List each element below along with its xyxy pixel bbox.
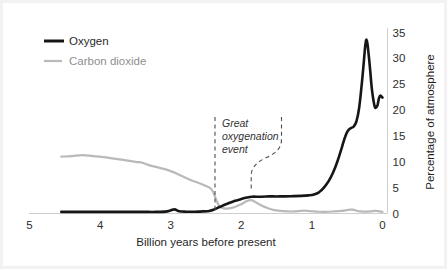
annotation-leader-dashed-line [251, 117, 281, 192]
annotation-text-line-3: event [222, 143, 249, 155]
legend: Oxygen Carbon dioxide [44, 35, 146, 67]
x-tick-label-2: 2 [238, 219, 244, 231]
y-tick-label-0: 0 [393, 208, 399, 220]
y-axis-tick-labels: 05101520253035 [393, 27, 406, 220]
atmosphere-evolution-figure: 543210 05101520253035 Great oxygenation … [0, 0, 447, 269]
x-tick-label-0: 0 [379, 219, 385, 231]
y-tick-label-15: 15 [393, 130, 406, 142]
carbon-dioxide-series-line [61, 155, 382, 212]
x-tick-label-4: 4 [97, 219, 104, 231]
y-tick-label-20: 20 [393, 104, 406, 116]
y-tick-label-5: 5 [393, 182, 399, 194]
y-tick-label-30: 30 [393, 52, 406, 64]
x-tick-label-3: 3 [167, 219, 173, 231]
x-tick-label-5: 5 [26, 219, 32, 231]
annotation-text-line-1: Great [222, 117, 249, 129]
y-tick-label-35: 35 [393, 27, 406, 39]
y-axis-title: Percentage of atmosphere [424, 54, 436, 190]
oxygen-legend-label: Oxygen [69, 35, 109, 47]
annotation-text-line-2: oxygenation [222, 130, 279, 142]
x-axis-title: Billion years before present [136, 236, 276, 248]
y-tick-label-10: 10 [393, 156, 406, 168]
chart-canvas: 543210 05101520253035 Great oxygenation … [0, 0, 447, 269]
x-tick-label-1: 1 [309, 219, 315, 231]
x-axis-tick-labels: 543210 [26, 219, 385, 231]
y-tick-label-25: 25 [393, 78, 406, 90]
carbon-dioxide-legend-label: Carbon dioxide [69, 55, 146, 67]
